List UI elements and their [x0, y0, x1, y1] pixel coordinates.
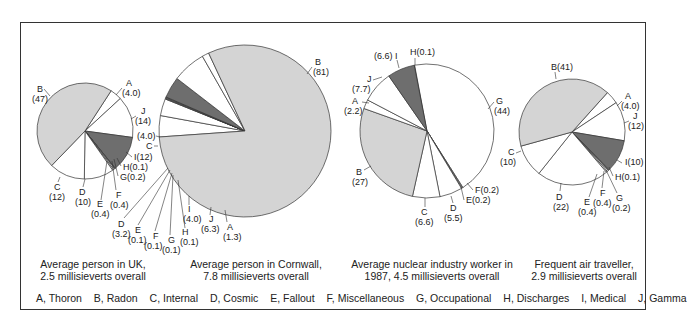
- leader-line: [461, 187, 464, 200]
- legend-item-radon: B, Radon: [94, 292, 138, 304]
- caption-cornwall-line2: 7.8 millisieverts overall: [176, 270, 336, 282]
- slice-label: (47): [32, 94, 48, 104]
- slice-label: (0.1): [144, 241, 163, 251]
- caption-uk-line2: 2.5 millisieverts overall: [28, 270, 158, 282]
- legend-item-gamma: J, Gamma: [638, 292, 686, 304]
- slice-label: (6.3): [201, 224, 220, 234]
- leader-line: [560, 183, 561, 191]
- pie-cornwall: B(81)(4.0)CD(3.2)E(0.1)F(0.1)G(0.1)H(0.1…: [112, 45, 331, 255]
- legend-item-cosmic: D, Cosmic: [210, 292, 258, 304]
- slice-label: (0.4): [110, 200, 129, 210]
- leader-line: [617, 160, 622, 163]
- slice-label: H(0.1): [410, 47, 435, 57]
- leader-line: [307, 67, 312, 74]
- slice-label: D: [79, 187, 86, 197]
- slice-label: J: [367, 74, 372, 84]
- slice-label: (0.1): [180, 237, 199, 247]
- slice-label: (12): [49, 192, 65, 202]
- slice-label: F: [116, 190, 122, 200]
- slice-label: A: [625, 91, 631, 101]
- caption-uk: Average person in UK, 2.5 millisieverts …: [28, 258, 158, 282]
- caption-cornwall-line1: Average person in Cornwall,: [176, 258, 336, 270]
- leader-line: [364, 166, 371, 170]
- slice-label: (10): [75, 197, 91, 207]
- slice-label: C: [54, 182, 61, 192]
- slice-label: F: [600, 188, 606, 198]
- slice-label: F: [153, 231, 159, 241]
- slice-label: (2.2): [344, 106, 363, 116]
- slice-label: B: [37, 84, 43, 94]
- leader-line: [83, 179, 85, 187]
- leader-line: [555, 72, 556, 79]
- caption-nuclear: Average nuclear industry worker in 1987,…: [342, 258, 522, 282]
- slice-label: H(0.1): [123, 162, 148, 172]
- slice-label: A: [352, 96, 358, 106]
- slice-label: (4.0): [122, 88, 141, 98]
- slice-label: (27): [352, 177, 368, 187]
- caption-air-line2: 2.9 millisieverts overall: [514, 270, 654, 282]
- legend-item-fallout: E, Fallout: [270, 292, 314, 304]
- legend: A, Thoron B, Radon C, Internal D, Cosmic…: [36, 292, 692, 304]
- slice-label: B: [356, 167, 362, 177]
- leader-line: [516, 151, 521, 153]
- slice-label: (0.4): [91, 209, 110, 219]
- slice-label: (22): [553, 202, 569, 212]
- legend-item-thoron: A, Thoron: [36, 292, 82, 304]
- caption-air-line1: Frequent air traveller,: [514, 258, 654, 270]
- slice-label: (5.5): [444, 213, 463, 223]
- legend-item-discharges: H, Discharges: [503, 292, 569, 304]
- slice-label: (6.6): [415, 217, 434, 227]
- leader-line: [170, 175, 173, 235]
- slice-label: (0.2): [612, 203, 631, 213]
- legend-item-miscellaneous: F, Miscellaneous: [327, 292, 405, 304]
- slice-label: D: [118, 219, 125, 229]
- slice-label: J: [141, 106, 146, 116]
- caption-nuclear-line2: 1987, 4.5 millisieverts overall: [342, 270, 522, 282]
- slice-label: J: [633, 111, 638, 121]
- slice-label: G(0.2): [120, 172, 146, 182]
- slice-label: (10): [500, 157, 516, 167]
- slice-label: (4.0): [621, 101, 640, 111]
- slice-label: E: [135, 225, 141, 235]
- legend-item-occupational: G, Occupational: [416, 292, 491, 304]
- pie-uk: B(47)A(4.0)J(14)I(12)H(0.1)G(0.2)C(12)D(…: [32, 78, 153, 219]
- slice-label: (1.3): [223, 232, 242, 242]
- slice-label: C: [508, 147, 515, 157]
- slice-label: H(0.1): [615, 172, 640, 182]
- slice-label: F(0.2): [475, 185, 499, 195]
- slice-label: (7.7): [352, 84, 371, 94]
- slice-label: H: [182, 227, 189, 237]
- slice-label: G: [496, 96, 503, 106]
- caption-nuclear-line1: Average nuclear industry worker in: [342, 258, 522, 270]
- slice-label: (81): [313, 67, 329, 77]
- slice-label: C: [146, 141, 153, 151]
- slice-label: (44): [494, 106, 510, 116]
- slice-label: D: [556, 192, 563, 202]
- slice-label: (0.1): [162, 245, 181, 255]
- caption-cornwall: Average person in Cornwall, 7.8 millisie…: [176, 258, 336, 282]
- slice-label: B(41): [551, 62, 573, 72]
- caption-uk-line1: Average person in UK,: [28, 258, 158, 270]
- slice-label: (0.4): [578, 207, 597, 217]
- slice-label: (4.0): [183, 214, 202, 224]
- slice-label: B: [315, 57, 321, 67]
- slice-label: E(0.2): [466, 195, 491, 205]
- caption-air: Frequent air traveller, 2.9 millisievert…: [514, 258, 654, 282]
- slice-label: G: [616, 193, 623, 203]
- slice-label: E: [584, 197, 590, 207]
- slice-label: (14): [135, 116, 151, 126]
- slice-label: (12): [628, 121, 644, 131]
- legend-item-medical: I, Medical: [581, 292, 626, 304]
- slice-label: A: [227, 222, 233, 232]
- leader-line: [467, 183, 473, 190]
- leader-line: [397, 60, 399, 68]
- slice-label: J: [209, 214, 214, 224]
- pie-nuclear: (6.6) IH(0.1)J(7.7)A(2.2)G(44)B(27)F(0.2…: [344, 47, 510, 227]
- slice-label: (6.6) I: [374, 51, 398, 61]
- slice-label: D: [450, 203, 457, 213]
- slice-label: I(12): [134, 152, 153, 162]
- slice-label: G: [168, 235, 175, 245]
- slice-label: A: [126, 78, 132, 88]
- slice-label: I(10): [625, 157, 644, 167]
